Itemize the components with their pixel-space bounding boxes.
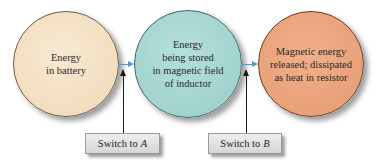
switch-b-pointer (246, 75, 247, 134)
switch-to-a-label: Switch toA (85, 133, 160, 154)
inductor-energy-node: Energy being stored in magnetic field of… (134, 10, 242, 118)
node-label-line: in battery (46, 64, 86, 77)
up-arrow-icon (243, 69, 249, 76)
node-label-line: Magnetic energy (270, 45, 352, 58)
node-label-line: being stored (152, 51, 223, 64)
node-label-line: in magnetic field (152, 64, 223, 77)
resistor-energy-node: Magnetic energy released; dissipated as … (258, 11, 364, 117)
node-label-line: Energy (46, 51, 86, 64)
switch-to-b-label: Switch toB (208, 133, 282, 154)
node-label-line: as heat in resistor (270, 71, 352, 84)
arrowhead-icon (128, 61, 134, 67)
switch-target: A (141, 138, 147, 149)
switch-target: B (263, 138, 269, 149)
battery-energy-node: Energy in battery (13, 11, 119, 117)
switch-prefix: Switch to (98, 138, 138, 149)
arrowhead-icon (252, 61, 258, 67)
node-label-line: released; dissipated (270, 58, 352, 71)
node-label-line: of inductor (152, 77, 223, 90)
node-label-line: Energy (152, 38, 223, 51)
switch-prefix: Switch to (220, 138, 260, 149)
switch-a-pointer (123, 75, 124, 134)
up-arrow-icon (120, 69, 126, 76)
